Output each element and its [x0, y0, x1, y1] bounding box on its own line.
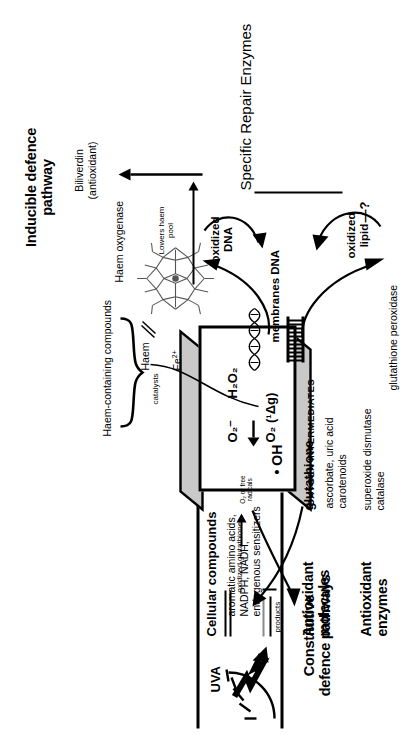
lowers-haem-pool-label: Lowers haem pool — [156, 176, 174, 284]
antioxidant-molecules-list: ascorbate, uric acid carotenoids — [322, 417, 347, 508]
inducible-heading-line-1: Inducible defence — [22, 92, 38, 282]
haem-label: Haem — [138, 342, 151, 370]
rotated-figure-wrapper: Constitutive defence pathways UVA Cellul… — [0, 0, 417, 742]
uva-lightning-arrow-icon — [228, 636, 272, 698]
species-singlet-oxygen: O₂ (¹Δg) — [262, 392, 277, 442]
iron-label: Fe2+ — [170, 350, 183, 370]
uva-label: UVA — [208, 666, 223, 692]
glutathione-label: glutathione — [300, 440, 315, 510]
list-item: superoxide dismutase — [360, 408, 373, 510]
haem-oxygenase-label: Haem oxygenase — [112, 200, 125, 282]
biliverdin-line-1: Biliverdin — [72, 110, 85, 230]
oxygen-or-free-radicals-label: O₂ or free radicals — [238, 454, 253, 524]
inducible-heading: Inducible defence pathway — [22, 92, 54, 282]
oxidized-dna-line-1: oxidized — [208, 202, 221, 276]
haem-to-biliverdin-arrow — [118, 166, 202, 182]
cellular-compounds-heading: Cellular compounds — [204, 511, 219, 636]
species-hydroxyl-radical: • OH — [268, 444, 284, 474]
iron-charge: 2+ — [170, 350, 177, 358]
figure-canvas: Constitutive defence pathways UVA Cellul… — [0, 0, 417, 742]
antioxidant-enzymes-list: superoxide dismutase catalase — [360, 408, 385, 510]
glutathione-cycle-arrows — [244, 500, 306, 610]
specific-repair-enzymes-heading: Specific Repair Enzymes — [236, 23, 253, 190]
oxidized-glutathione-label: oxidized glutathione — [234, 521, 243, 592]
haem-oxygenase-arrow-shaft — [192, 188, 194, 284]
glutathione-peroxidase-label: glutathione peroxidase — [386, 284, 399, 390]
lowers-haem-pool-line-2: pool — [165, 176, 174, 284]
products-label: products — [272, 601, 281, 632]
list-item: ascorbate, uric acid — [322, 417, 335, 508]
list-item: catalase — [373, 408, 386, 510]
antioxidant-molecules-line-2: molecules — [316, 486, 332, 636]
free-radicals-line-1: O₂ or free — [238, 454, 245, 524]
list-item: carotenoids — [335, 417, 348, 508]
catalysts-feed-curve — [150, 346, 260, 426]
catalysts-label: catalysts — [150, 373, 159, 404]
biliverdin-label: Biliverdin (antioxidant) — [72, 110, 97, 230]
oxidized-dna-line-2: DNA — [221, 202, 234, 276]
free-radicals-line-2: radicals — [245, 454, 252, 524]
panel-rule-top — [196, 492, 199, 728]
haem-containing-compounds-label: Haem-containing compounds — [100, 299, 113, 436]
oxidized-dna-label: oxidized DNA — [208, 202, 234, 276]
biliverdin-line-2: (antioxidant) — [85, 110, 98, 230]
oxidized-lipid-line-1: oxidized — [344, 198, 357, 272]
inducible-heading-line-2: pathway — [38, 92, 54, 282]
lowers-haem-pool-line-1: Lowers haem — [156, 176, 165, 284]
repair-connector — [238, 180, 358, 206]
iron-symbol: Fe — [171, 358, 183, 370]
